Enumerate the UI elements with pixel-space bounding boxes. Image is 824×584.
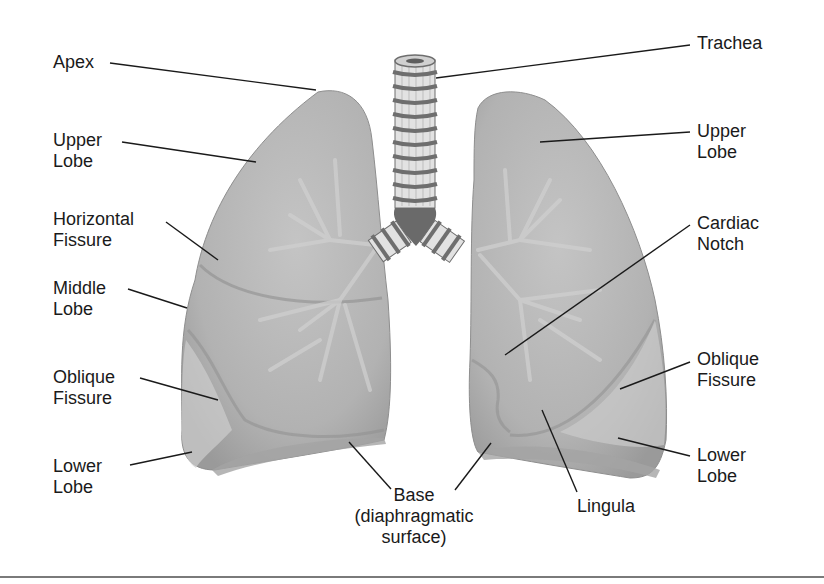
label-line: Horizontal (53, 209, 134, 230)
label-line: Lobe (53, 151, 102, 172)
label-line: Oblique (697, 349, 759, 370)
trachea (367, 55, 465, 264)
label-line: Cardiac (697, 213, 759, 234)
label-trachea: Trachea (697, 33, 762, 54)
label-line: Fissure (697, 370, 759, 391)
label-apex: Apex (53, 52, 94, 73)
label-cardiac-notch: Cardiac Notch (697, 213, 759, 255)
label-middle-lobe: Middle Lobe (53, 278, 106, 320)
leader-upper-lobe-right (122, 142, 256, 162)
label-line: Lobe (697, 142, 746, 163)
label-oblique-fissure-right: Oblique Fissure (53, 367, 115, 409)
label-upper-lobe-right: Upper Lobe (53, 130, 102, 172)
leader-base-right (349, 442, 391, 489)
label-line: Lower (53, 456, 102, 477)
label-line: Lingula (577, 496, 635, 517)
label-line: (diaphragmatic (344, 506, 484, 527)
label-line: Lobe (53, 299, 106, 320)
label-base: Base (diaphragmatic surface) (344, 485, 484, 548)
bottom-divider (0, 576, 824, 578)
leader-middle-lobe (128, 289, 187, 308)
label-line: Oblique (53, 367, 115, 388)
lung-anatomy-diagram: Apex Upper Lobe Horizontal Fissure Middl… (0, 0, 824, 584)
label-line: Notch (697, 234, 759, 255)
leader-lower-lobe-right (130, 452, 192, 465)
label-apex-text: Apex (53, 52, 94, 73)
label-upper-lobe-left: Upper Lobe (697, 121, 746, 163)
label-horizontal-fissure: Horizontal Fissure (53, 209, 134, 251)
label-line: Middle (53, 278, 106, 299)
label-oblique-fissure-left: Oblique Fissure (697, 349, 759, 391)
left-lung (469, 92, 666, 478)
label-lower-lobe-right: Lower Lobe (53, 456, 102, 498)
label-line: Fissure (53, 230, 134, 251)
leader-trachea (436, 45, 690, 78)
label-line: Lobe (53, 477, 102, 498)
label-line: surface) (344, 527, 484, 548)
leader-apex (110, 63, 316, 90)
label-line: Lower (697, 445, 746, 466)
label-line: Fissure (53, 388, 115, 409)
label-line: Upper (53, 130, 102, 151)
label-line: Upper (697, 121, 746, 142)
label-line: Trachea (697, 33, 762, 54)
leader-base-left (455, 443, 491, 490)
label-line: Lobe (697, 466, 746, 487)
label-lingula: Lingula (577, 496, 635, 517)
label-line: Base (344, 485, 484, 506)
label-lower-lobe-left: Lower Lobe (697, 445, 746, 487)
right-lung (182, 91, 391, 476)
